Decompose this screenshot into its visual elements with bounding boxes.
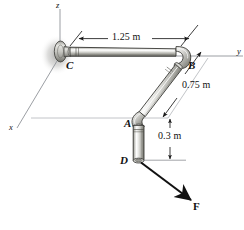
y-axis-label: y bbox=[237, 47, 241, 56]
ext-line-b bbox=[181, 25, 198, 46]
point-c: C bbox=[66, 60, 73, 71]
pipe-assembly-figure: z y x C B A D 1.25 m 0.75 m 0.3 m F bbox=[0, 0, 244, 230]
point-d: D bbox=[120, 155, 128, 166]
point-a: A bbox=[124, 118, 131, 129]
force-arrow-f bbox=[141, 163, 191, 201]
pipe-segment-cb bbox=[70, 47, 176, 56]
force-label: F bbox=[193, 201, 200, 212]
dimension-ba: 0.75 m bbox=[182, 80, 210, 90]
x-axis-label: x bbox=[9, 123, 13, 132]
dimension-ad: 0.3 m bbox=[158, 131, 181, 141]
point-b: B bbox=[188, 60, 195, 71]
x-axis-line bbox=[17, 56, 60, 128]
dimension-cb: 1.25 m bbox=[112, 32, 140, 42]
pipe-segment-ba bbox=[139, 64, 182, 116]
z-axis-label: z bbox=[56, 1, 59, 10]
pipe-segment-ad bbox=[133, 125, 144, 160]
